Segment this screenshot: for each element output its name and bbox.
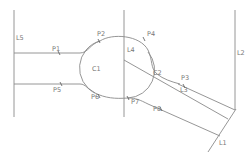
label-p6: P6 (91, 93, 99, 101)
label-p1: P1 (52, 45, 60, 53)
label-l1: L1 (219, 139, 227, 147)
label-c2: C2 (153, 69, 162, 77)
label-l3: L3 (180, 86, 188, 94)
label-p7: P7 (131, 98, 139, 106)
label-p4: P4 (147, 30, 155, 38)
label-c1: C1 (92, 65, 101, 73)
label-l4: L4 (127, 46, 135, 54)
point-markers (58, 37, 185, 111)
label-p8: P8 (153, 105, 161, 113)
label-l2: L2 (237, 49, 245, 57)
label-p3: P3 (181, 74, 189, 82)
arc-top-p4[interactable] (100, 36, 180, 84)
line-l3-diagonal[interactable] (124, 60, 228, 119)
label-p5: P5 (53, 86, 61, 94)
cad-diagram: L5 L4 L2 L3 L1 C1 C2 P1 P2 P3 P4 P5 P6 P… (0, 0, 252, 164)
label-p2: P2 (97, 30, 105, 38)
line-p8-diagonal[interactable] (128, 98, 220, 136)
label-l5: L5 (16, 34, 24, 42)
